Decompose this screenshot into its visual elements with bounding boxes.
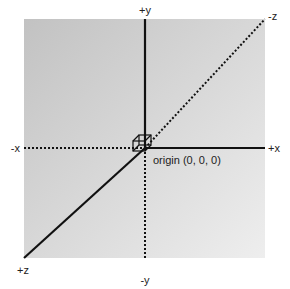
label-pos-x: +x: [268, 142, 280, 154]
label-pos-z: +z: [17, 264, 29, 276]
label-neg-x: -x: [11, 142, 21, 154]
label-neg-z: -z: [268, 10, 277, 22]
origin-label: origin (0, 0, 0): [153, 154, 221, 166]
axes-diagram: +y -y +x -x +z -z origin (0, 0, 0): [0, 0, 290, 289]
label-neg-y: -y: [140, 274, 150, 286]
label-pos-y: +y: [139, 4, 151, 16]
